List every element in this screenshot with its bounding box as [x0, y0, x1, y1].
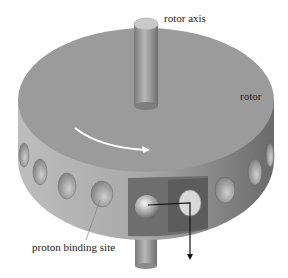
label-proton-binding-site: proton binding site — [32, 241, 115, 253]
axis-bottom — [135, 238, 157, 269]
label-rotor: rotor — [240, 90, 261, 102]
label-rotor-axis: rotor axis — [164, 12, 206, 24]
proton-ball — [135, 195, 159, 219]
rotor-axis — [134, 18, 158, 110]
stator — [128, 176, 208, 236]
rotor-diagram — [0, 0, 288, 278]
proton-binding-site-hole — [91, 181, 113, 207]
